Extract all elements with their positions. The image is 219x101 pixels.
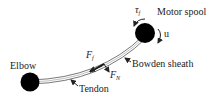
sheath-pointer-icon — [125, 58, 131, 62]
u-arrow-icon — [158, 29, 161, 43]
tendon-label: Tendon — [79, 84, 109, 94]
u-label: u — [164, 29, 169, 39]
elbow-node — [21, 73, 40, 92]
ff-subscript: f — [92, 55, 94, 61]
tendon-pointer-icon — [71, 80, 78, 86]
motor-spool-node — [135, 23, 155, 43]
tau-subscript: f — [139, 10, 141, 16]
elbow-label: Elbow — [10, 61, 36, 71]
fn-subscript: N — [116, 75, 120, 81]
bowden-sheath-label: Bowden sheath — [132, 59, 193, 69]
motor-spool-label: Motor spool — [157, 7, 206, 17]
fn-label: FN — [110, 70, 120, 81]
tau-label: τf — [135, 5, 140, 16]
ff-label: Ff — [86, 50, 94, 61]
